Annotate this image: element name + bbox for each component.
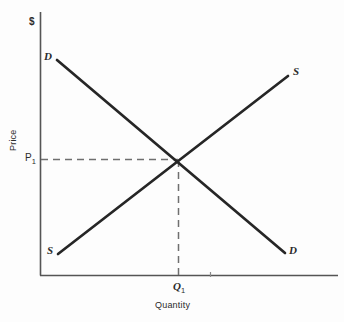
chart-canvas [0, 0, 344, 322]
price-equilibrium-symbol: P [25, 152, 32, 163]
demand-curve-bottom-label: D [289, 245, 297, 256]
quantity-axis-label: Quantity [155, 301, 190, 310]
price-axis-label: Price [9, 129, 18, 151]
demand-curve[interactable] [57, 60, 285, 253]
supply-curve-top-label: S [293, 66, 299, 77]
supply-curve-bottom-label: S [47, 245, 53, 256]
supply-demand-chart: $ Price P1 Q1 Quantity D D S S [0, 0, 344, 322]
quantity-equilibrium-subscript: 1 [181, 286, 185, 295]
quantity-equilibrium-label: Q1 [173, 281, 185, 295]
price-equilibrium-label: P1 [25, 153, 36, 166]
price-equilibrium-subscript: 1 [32, 157, 36, 166]
demand-curve-top-label: D [44, 51, 52, 62]
currency-unit-label: $ [29, 17, 35, 27]
quantity-equilibrium-symbol: Q [173, 280, 181, 292]
